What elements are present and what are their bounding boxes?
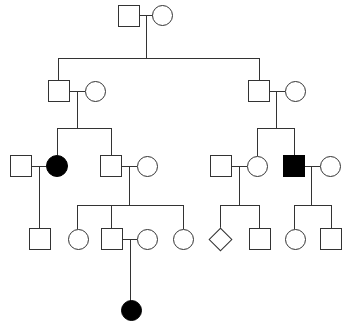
individual-female-affected[interactable] bbox=[121, 300, 142, 321]
sibship-line bbox=[294, 205, 331, 206]
drop-line bbox=[331, 205, 332, 228]
descent-line bbox=[311, 166, 312, 205]
individual-male-unaffected[interactable] bbox=[248, 80, 270, 102]
descent-line bbox=[239, 166, 240, 205]
individual-female-unaffected[interactable] bbox=[247, 156, 268, 177]
individual-female-unaffected[interactable] bbox=[285, 229, 306, 250]
sibship-line bbox=[257, 128, 294, 129]
individual-female-affected[interactable] bbox=[46, 155, 68, 177]
individual-male-unaffected[interactable] bbox=[118, 5, 140, 27]
individual-female-unaffected[interactable] bbox=[137, 229, 158, 250]
individual-male-unaffected[interactable] bbox=[100, 155, 122, 177]
mating-line bbox=[305, 166, 320, 167]
descent-line bbox=[130, 239, 131, 301]
individual-male-unaffected[interactable] bbox=[29, 228, 51, 250]
drop-line bbox=[183, 205, 184, 229]
drop-line bbox=[111, 205, 112, 228]
sibship-line bbox=[57, 128, 111, 129]
individual-male-unaffected[interactable] bbox=[10, 155, 32, 177]
descent-line bbox=[39, 166, 40, 228]
descent-line bbox=[77, 91, 78, 128]
drop-line bbox=[58, 58, 59, 80]
individual-male-affected[interactable] bbox=[283, 155, 305, 177]
drop-line bbox=[257, 128, 258, 156]
individual-female-unaffected[interactable] bbox=[68, 229, 89, 250]
descent-line bbox=[129, 166, 130, 205]
drop-line bbox=[259, 58, 260, 80]
individual-female-unaffected[interactable] bbox=[320, 156, 341, 177]
drop-line bbox=[57, 128, 58, 155]
individual-female-unaffected[interactable] bbox=[152, 5, 173, 26]
sibship-line bbox=[220, 205, 259, 206]
individual-female-unaffected[interactable] bbox=[85, 81, 106, 102]
drop-line bbox=[294, 205, 295, 229]
individual-male-unaffected[interactable] bbox=[320, 228, 342, 250]
individual-female-unaffected[interactable] bbox=[285, 81, 306, 102]
mating-line bbox=[270, 91, 285, 92]
individual-male-unaffected[interactable] bbox=[48, 80, 70, 102]
drop-line bbox=[294, 128, 295, 155]
descent-line bbox=[146, 15, 147, 58]
drop-line bbox=[77, 205, 78, 229]
pedigree-chart bbox=[0, 0, 342, 330]
descent-line bbox=[276, 91, 277, 128]
individual-male-unaffected[interactable] bbox=[249, 228, 271, 250]
individual-male-unaffected[interactable] bbox=[210, 155, 232, 177]
individual-male-unaffected[interactable] bbox=[101, 228, 123, 250]
sibship-line bbox=[58, 58, 260, 59]
drop-line bbox=[111, 128, 112, 155]
drop-line bbox=[259, 205, 260, 228]
individual-female-unaffected[interactable] bbox=[137, 156, 158, 177]
individual-unknown-unaffected[interactable] bbox=[208, 227, 232, 251]
sibship-line bbox=[77, 205, 183, 206]
individual-female-unaffected[interactable] bbox=[173, 229, 194, 250]
